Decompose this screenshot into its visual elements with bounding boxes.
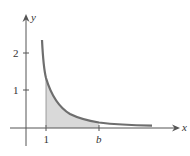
tick-label-x-b: b: [96, 133, 102, 145]
tick-label-y-2: 2: [13, 47, 19, 59]
y-axis-label: y: [30, 11, 36, 23]
tick-label-y-1: 1: [13, 84, 19, 96]
chart: y x 2 1 1 b: [0, 0, 190, 156]
x-axis-label: x: [181, 121, 187, 133]
tick-label-x-1: 1: [44, 133, 50, 145]
